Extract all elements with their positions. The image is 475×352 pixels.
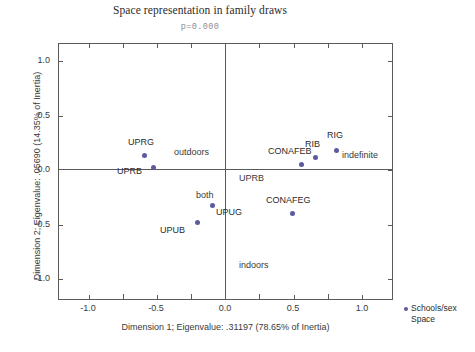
category-label-indefinite: indefinite	[342, 150, 378, 160]
tick-x-minor	[157, 295, 158, 299]
tick-x-major	[259, 294, 260, 299]
data-point-rib[interactable]	[313, 155, 318, 160]
xtick-label-3: 0.0	[205, 303, 245, 313]
xtick-label-1: -1.0	[68, 303, 108, 313]
tick-y-right	[388, 170, 392, 171]
tick-x-major	[123, 294, 124, 299]
y-axis-title: Dimension 2; Eigenvalue: .05690 (14.35% …	[32, 46, 42, 306]
tick-x-top	[259, 44, 260, 48]
xtick-label-5: 1.0	[342, 303, 382, 313]
tick-y-major	[59, 279, 63, 280]
data-label-uprg: UPRG	[128, 137, 154, 147]
tick-x-top	[328, 44, 329, 48]
xtick-label-4: 0.5	[273, 303, 313, 313]
data-label-upug: UPUG	[216, 207, 242, 217]
data-point-uprb[interactable]	[151, 165, 156, 170]
data-point-conafeg[interactable]	[290, 211, 295, 216]
category-label-indoors: indoors	[239, 260, 269, 270]
category-label-both: both	[196, 190, 214, 200]
tick-x-top	[191, 44, 192, 48]
horizontal-zero-axis	[59, 169, 392, 170]
category-label-uprb-space: UPRB	[239, 173, 264, 183]
tick-x-top	[123, 44, 124, 48]
tick-x-top	[157, 44, 158, 48]
tick-x-major	[328, 294, 329, 299]
data-point-upug[interactable]	[210, 203, 215, 208]
tick-y-major	[59, 225, 63, 226]
tick-x-minor	[225, 295, 226, 299]
x-axis-title: Dimension 1; Eigenvalue: .31197 (78.65% …	[58, 322, 393, 332]
legend: Schools/sex Space	[404, 303, 474, 325]
tick-y-right	[388, 61, 392, 62]
legend-spacer-icon	[404, 318, 408, 322]
tick-y-right	[388, 116, 392, 117]
tick-x-major	[191, 294, 192, 299]
legend-label-space: Space	[411, 314, 435, 325]
data-point-rig[interactable]	[334, 148, 339, 153]
tick-x-top	[89, 44, 90, 48]
category-label-outdoors: outdoors	[174, 147, 209, 157]
tick-x-minor	[89, 295, 90, 299]
tick-x-minor	[294, 295, 295, 299]
data-label-uprb: UPRB	[117, 166, 142, 176]
tick-y-right	[388, 225, 392, 226]
data-label-conafeg: CONAFEG	[266, 195, 311, 205]
chart-subtitle-pvalue: p=0.000	[0, 22, 400, 32]
scatter-chart-figure: Space representation in family draws p=0…	[0, 0, 475, 352]
data-label-upub: UPUB	[160, 225, 185, 235]
data-point-uprg[interactable]	[142, 153, 147, 158]
legend-item-space[interactable]: Space	[404, 314, 474, 325]
tick-y-major	[59, 61, 63, 62]
vertical-zero-axis	[225, 44, 226, 299]
tick-y-major	[59, 116, 63, 117]
plot-area: UPRG UPRB UPUG UPUB CONAFEB CONAFEG RIB …	[58, 43, 393, 300]
tick-x-minor	[362, 295, 363, 299]
data-point-conafeb[interactable]	[299, 162, 304, 167]
tick-x-top	[294, 44, 295, 48]
legend-label-schools-sex: Schools/sex	[411, 303, 457, 314]
chart-title: Space representation in family draws	[0, 4, 400, 16]
tick-y-right	[388, 279, 392, 280]
legend-dot-icon	[404, 307, 408, 311]
data-point-upub[interactable]	[195, 220, 200, 225]
legend-item-schools-sex[interactable]: Schools/sex	[404, 303, 474, 314]
data-label-rig: RIG	[327, 130, 343, 140]
xtick-label-2: -0.5	[136, 303, 176, 313]
tick-x-top	[362, 44, 363, 48]
data-label-rib: RIB	[305, 139, 320, 149]
